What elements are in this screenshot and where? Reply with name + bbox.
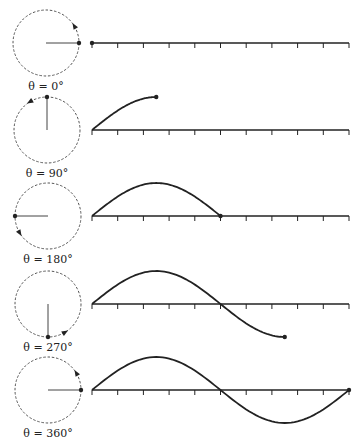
curve-end-dot [90, 41, 94, 45]
angle-label: θ = 90° [26, 167, 68, 180]
phasor-sine-diagram: θ = 0°θ = 90°θ = 180°θ = 270°θ = 360° [0, 0, 362, 448]
angle-label: θ = 360° [23, 427, 72, 440]
rotation-arrow-icon [74, 370, 80, 377]
panel-90: θ = 90° [14, 95, 349, 180]
curve-end-dot [154, 95, 158, 99]
rotation-arrow-icon [27, 98, 34, 104]
rotation-arrow-icon [72, 23, 78, 30]
curve-end-dot [347, 388, 351, 392]
angle-label: θ = 180° [23, 253, 72, 266]
sine-curve [92, 97, 156, 130]
sine-curve [92, 183, 221, 216]
angle-label: θ = 270° [23, 341, 72, 354]
phasor-tip-dot [13, 214, 17, 218]
rotation-arrow-icon [16, 229, 22, 236]
phasor-tip-dot [45, 95, 49, 99]
panel-0: θ = 0° [13, 10, 349, 93]
panel-270: θ = 270° [15, 271, 349, 354]
panel-180: θ = 180° [13, 183, 349, 266]
curve-end-dot [283, 335, 287, 339]
rotation-arrow-icon [61, 330, 68, 336]
phasor-tip-dot [46, 335, 50, 339]
phasor-tip-dot [79, 388, 83, 392]
curve-end-dot [218, 214, 222, 218]
angle-label: θ = 0° [28, 80, 63, 93]
phasor-tip-dot [77, 41, 81, 45]
panel-360: θ = 360° [15, 357, 351, 440]
